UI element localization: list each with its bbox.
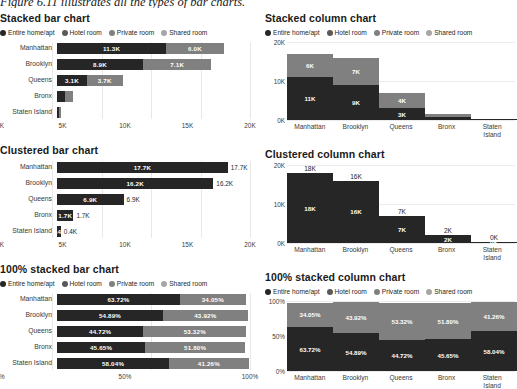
- column-segment[interactable]: 43.92%: [333, 302, 379, 333]
- legend-item[interactable]: Hotel room: [62, 280, 102, 287]
- bar-row[interactable]: Staten Island0.4K0.4K: [0, 225, 250, 238]
- column-slot[interactable]: 7K7K: [379, 165, 425, 243]
- column-segment[interactable]: [471, 119, 517, 120]
- column-segment[interactable]: 7K: [379, 216, 425, 243]
- bar-segment[interactable]: 51.80%: [145, 342, 245, 353]
- column-bar[interactable]: [471, 119, 517, 120]
- column-bar[interactable]: 34.05%63.72%: [287, 303, 333, 371]
- column-bar[interactable]: [425, 114, 471, 120]
- bar-row[interactable]: Manhattan63.72%34.05%: [0, 293, 250, 306]
- legend-item[interactable]: Shared room: [161, 29, 207, 36]
- column-segment[interactable]: 18K: [287, 173, 333, 243]
- legend-item[interactable]: Entire home/apt: [265, 288, 320, 295]
- column-segment[interactable]: 11K: [287, 77, 333, 120]
- legend-item[interactable]: Hotel room: [327, 29, 367, 36]
- bar-row[interactable]: Queens44.72%53.32%: [0, 325, 250, 338]
- bar-row[interactable]: Bronx45.65%51.80%: [0, 341, 250, 354]
- column-slot[interactable]: 51.80%45.65%: [425, 301, 471, 371]
- column-bar[interactable]: 2K: [425, 235, 471, 243]
- column-segment[interactable]: 45.65%: [425, 339, 471, 371]
- column-bar[interactable]: 51.80%45.65%: [425, 303, 471, 371]
- column-slot[interactable]: 34.05%63.72%: [287, 301, 333, 371]
- column-segment[interactable]: 63.72%: [287, 327, 333, 372]
- column-slot[interactable]: 41.26%58.04%: [471, 301, 517, 371]
- legend-item[interactable]: Entire home/apt: [0, 29, 55, 36]
- bar-row[interactable]: Bronx: [0, 90, 250, 103]
- bar-segment[interactable]: 11.3K: [57, 43, 166, 54]
- column-slot[interactable]: 4K3K: [379, 42, 425, 120]
- legend-item[interactable]: Hotel room: [327, 288, 367, 295]
- bar-segment[interactable]: 41.26%: [169, 358, 249, 369]
- column-slot[interactable]: 43.92%54.89%: [333, 301, 379, 371]
- column-segment[interactable]: 4K: [379, 93, 425, 109]
- bar-row[interactable]: Queens6.9K6.9K: [0, 193, 250, 206]
- bar-segment[interactable]: 1.7K: [57, 210, 73, 221]
- bar-segment[interactable]: 3.1K: [57, 75, 87, 86]
- legend-item[interactable]: Hotel room: [62, 29, 102, 36]
- bar-row[interactable]: Brooklyn54.89%43.92%: [0, 309, 250, 322]
- bar-segment[interactable]: 54.89%: [57, 310, 163, 321]
- bar-segment[interactable]: 3.7K: [87, 75, 123, 86]
- column-segment[interactable]: 41.26%: [471, 302, 517, 331]
- legend-item[interactable]: Private room: [374, 29, 419, 36]
- column-bar[interactable]: 6K11K: [287, 54, 333, 120]
- column-segment[interactable]: 2K: [425, 235, 471, 243]
- column-slot[interactable]: 16K16K: [333, 165, 379, 243]
- column-segment[interactable]: 6K: [287, 54, 333, 77]
- legend-item[interactable]: Shared room: [426, 288, 472, 295]
- column-slot[interactable]: 7K9K: [333, 42, 379, 120]
- legend-item[interactable]: Shared room: [426, 29, 472, 36]
- column-bar[interactable]: 41.26%58.04%: [471, 302, 517, 372]
- legend-item[interactable]: Private room: [374, 288, 419, 295]
- bar-segment[interactable]: [57, 91, 65, 102]
- bar-segment[interactable]: 6.9K: [57, 194, 124, 205]
- bar-segment[interactable]: 7.1K: [143, 59, 212, 70]
- bar-row[interactable]: Brooklyn8.9K7.1K: [0, 58, 250, 71]
- bar-segment[interactable]: 53.32%: [143, 326, 246, 337]
- column-segment[interactable]: 3K: [379, 108, 425, 120]
- bar-segment[interactable]: 43.92%: [163, 310, 248, 321]
- column-slot[interactable]: 18K18K: [287, 165, 333, 243]
- column-segment[interactable]: 7K: [333, 58, 379, 85]
- bar-row[interactable]: Brooklyn16.2K16.2K: [0, 177, 250, 190]
- bar-row[interactable]: Bronx1.7K1.7K: [0, 209, 250, 222]
- column-bar[interactable]: 4K3K: [379, 93, 425, 120]
- bar-segment[interactable]: 17.7K: [57, 162, 228, 173]
- bar-segment[interactable]: 16.2K: [57, 178, 213, 189]
- column-segment[interactable]: 58.04%: [471, 331, 517, 372]
- column-segment[interactable]: 16K: [333, 181, 379, 243]
- bar-segment[interactable]: [59, 107, 61, 118]
- column-slot[interactable]: [471, 42, 517, 120]
- legend-item[interactable]: Private room: [109, 280, 154, 287]
- column-segment[interactable]: 54.89%: [333, 333, 379, 371]
- column-bar[interactable]: 7K9K: [333, 58, 379, 120]
- bar-segment[interactable]: 58.04%: [57, 358, 169, 369]
- bar-segment[interactable]: 6.0K: [166, 43, 224, 54]
- legend-item[interactable]: Shared room: [161, 280, 207, 287]
- bar-segment[interactable]: 34.05%: [180, 294, 246, 305]
- column-slot[interactable]: 53.32%44.72%: [379, 301, 425, 371]
- column-segment[interactable]: 53.32%: [379, 303, 425, 340]
- column-bar[interactable]: 43.92%54.89%: [333, 302, 379, 371]
- column-slot[interactable]: 0K0K: [471, 165, 517, 243]
- bar-segment[interactable]: 45.65%: [57, 342, 145, 353]
- column-segment[interactable]: 44.72%: [379, 340, 425, 371]
- legend-item[interactable]: Entire home/apt: [265, 29, 320, 36]
- bar-row[interactable]: Manhattan11.3K6.0K: [0, 42, 250, 55]
- legend-item[interactable]: Entire home/apt: [0, 280, 55, 287]
- bar-segment[interactable]: 63.72%: [57, 294, 180, 305]
- column-slot[interactable]: [425, 42, 471, 120]
- column-bar[interactable]: 7K: [379, 216, 425, 243]
- column-segment[interactable]: 51.80%: [425, 303, 471, 339]
- bar-segment[interactable]: [65, 91, 74, 102]
- column-bar[interactable]: 16K: [333, 181, 379, 243]
- bar-row[interactable]: Staten Island: [0, 106, 250, 119]
- column-slot[interactable]: 6K11K: [287, 42, 333, 120]
- column-bar[interactable]: 0K: [471, 242, 517, 243]
- bar-row[interactable]: Queens3.1K3.7K: [0, 74, 250, 87]
- column-slot[interactable]: 2K2K: [425, 165, 471, 243]
- column-segment[interactable]: [425, 117, 471, 120]
- legend-item[interactable]: Private room: [109, 29, 154, 36]
- bar-row[interactable]: Staten Island58.04%41.26%: [0, 357, 250, 370]
- column-bar[interactable]: 53.32%44.72%: [379, 303, 425, 372]
